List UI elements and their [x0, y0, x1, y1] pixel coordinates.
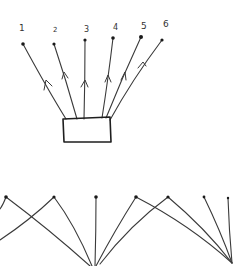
connector-line: [136, 197, 232, 263]
node-label-6: 6: [163, 20, 169, 29]
terminal-dot: [52, 195, 55, 198]
node-label-5: 5: [141, 22, 147, 31]
connector-line: [100, 197, 168, 264]
connector-line: [6, 197, 90, 266]
connector-line: [0, 197, 54, 240]
connector-line: [96, 197, 136, 266]
terminal-dot: [111, 36, 115, 40]
top-figure: [21, 35, 163, 142]
node-label-2: 2: [53, 27, 57, 34]
node-label-3: 3: [84, 26, 89, 34]
terminal-dot: [4, 195, 8, 199]
arrowhead-icon: [121, 72, 126, 80]
connector-line-2: [54, 44, 77, 119]
terminal-dot: [160, 38, 163, 41]
terminal-dot: [139, 35, 143, 39]
terminal-dot: [52, 42, 55, 45]
connector-line: [0, 197, 6, 209]
terminal-dot: [203, 196, 206, 199]
terminal-dot: [134, 195, 138, 199]
connector-line: [95, 197, 96, 266]
sketch-canvas: [0, 0, 234, 266]
bottom-figure: [0, 195, 232, 266]
terminal-dot: [83, 38, 86, 41]
node-label-1: 1: [19, 24, 25, 33]
terminal-dot: [227, 197, 229, 199]
terminal-dot: [166, 195, 169, 198]
terminal-dot: [21, 42, 25, 46]
connector-line-6: [110, 40, 162, 120]
connector-line: [54, 197, 92, 266]
terminal-dot: [94, 195, 98, 199]
connector-line: [168, 197, 232, 263]
connector-line-1: [23, 44, 66, 119]
node-label-4: 4: [113, 24, 118, 32]
central-box: [63, 117, 111, 142]
